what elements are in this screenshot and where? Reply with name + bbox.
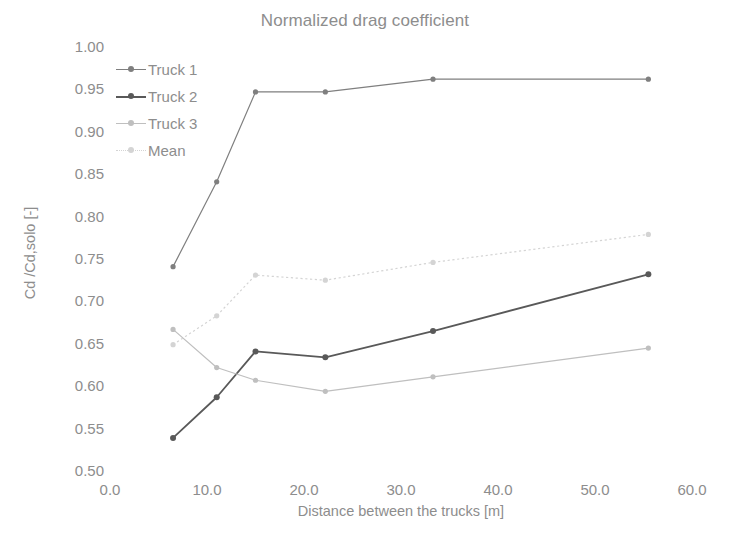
data-point-marker (323, 389, 328, 394)
data-point-marker (430, 328, 436, 334)
data-point-marker (170, 327, 175, 332)
data-point-marker (253, 89, 258, 94)
data-point-marker (430, 374, 435, 379)
data-point-marker (170, 342, 175, 347)
data-point-marker (322, 354, 328, 360)
plot-area (0, 0, 730, 551)
series-line (173, 274, 648, 438)
data-point-marker (645, 271, 651, 277)
data-point-marker (430, 77, 435, 82)
data-point-marker (214, 179, 219, 184)
data-point-marker (646, 77, 651, 82)
data-point-marker (253, 273, 258, 278)
data-point-marker (430, 260, 435, 265)
data-point-marker (214, 394, 220, 400)
data-point-marker (323, 278, 328, 283)
series-truck-1 (170, 77, 651, 270)
series-mean (170, 232, 651, 347)
data-point-marker (170, 264, 175, 269)
x-axis-title: Distance between the trucks [m] (110, 503, 692, 519)
y-axis-title: Cd /Cd,solo [-] (22, 183, 38, 323)
series-truck-2 (170, 271, 651, 441)
data-point-marker (214, 313, 219, 318)
data-point-marker (253, 378, 258, 383)
data-point-marker (214, 365, 219, 370)
chart-container: Normalized drag coefficient 0.500.550.60… (0, 0, 730, 551)
data-point-marker (646, 345, 651, 350)
series-line (173, 329, 648, 391)
data-point-marker (170, 435, 176, 441)
data-point-marker (323, 89, 328, 94)
data-point-marker (253, 348, 259, 354)
data-point-marker (646, 232, 651, 237)
series-line (173, 234, 648, 344)
series-line (173, 79, 648, 266)
